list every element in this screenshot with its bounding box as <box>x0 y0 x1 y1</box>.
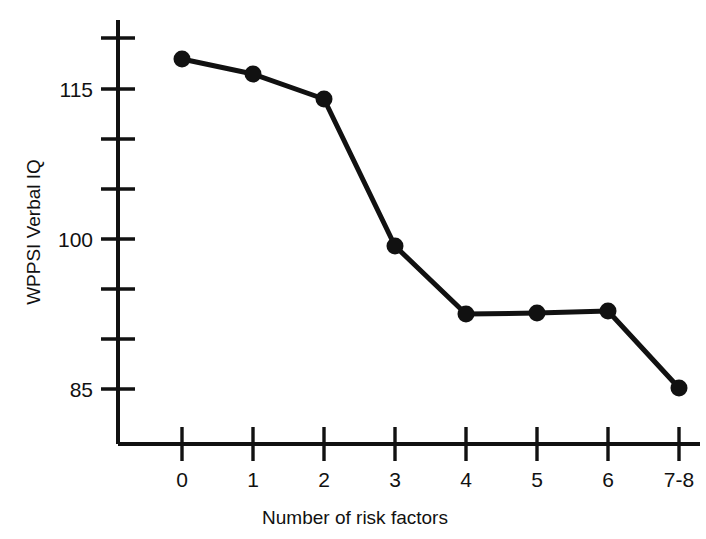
data-point-2 <box>316 91 333 108</box>
y-tick-label-85: 85 <box>70 378 93 401</box>
x-axis-title: Number of risk factors <box>262 507 448 528</box>
x-tick-label-3: 3 <box>389 468 401 491</box>
y-axis-title: WPPSI Verbal IQ <box>23 159 44 305</box>
x-tick-label-6: 6 <box>602 468 614 491</box>
line-chart-plot: 115 100 85 0 1 2 3 4 5 6 7-8 Number of r… <box>0 0 706 539</box>
x-tick-label-2: 2 <box>318 468 330 491</box>
data-point-1 <box>245 66 262 83</box>
data-series-line <box>182 59 679 388</box>
x-tick-label-0: 0 <box>176 468 188 491</box>
x-tick-label-4: 4 <box>460 468 472 491</box>
data-point-6 <box>600 303 617 320</box>
data-point-3 <box>387 238 404 255</box>
y-tick-label-115: 115 <box>60 78 93 101</box>
data-point-4 <box>458 306 475 323</box>
x-tick-label-5: 5 <box>531 468 543 491</box>
data-point-0 <box>174 51 191 68</box>
x-tick-label-7-8: 7-8 <box>664 468 694 491</box>
chart-container: 115 100 85 0 1 2 3 4 5 6 7-8 Number of r… <box>0 0 706 539</box>
data-point-7-8 <box>671 380 688 397</box>
y-tick-label-100: 100 <box>58 228 93 251</box>
x-tick-label-1: 1 <box>247 468 259 491</box>
data-series-markers <box>174 51 688 397</box>
data-point-5 <box>529 305 546 322</box>
